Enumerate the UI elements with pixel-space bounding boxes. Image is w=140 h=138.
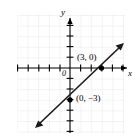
- point-label-0-neg3: (0, −3): [76, 94, 101, 103]
- data-point-3-0: [99, 65, 104, 70]
- data-point-0-neg3: [67, 97, 72, 102]
- origin-label: 0: [62, 70, 66, 78]
- y-axis-label: y: [61, 8, 65, 17]
- grid-background: [18, 15, 125, 134]
- graph-figure: y x 0 (3, 0) (0, −3): [0, 0, 140, 138]
- coordinate-plane-svg: [0, 0, 140, 138]
- point-label-3-0: (3, 0): [77, 53, 97, 62]
- x-axis-label: x: [128, 69, 132, 78]
